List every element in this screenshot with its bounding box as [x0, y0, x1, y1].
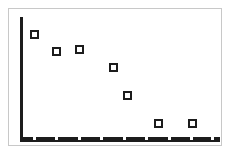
- plot-frame: [8, 8, 222, 146]
- x-axis-tick: [100, 137, 103, 140]
- y-axis-line: [20, 17, 23, 141]
- data-point-marker: [109, 63, 118, 72]
- x-axis-tick: [145, 137, 148, 140]
- x-axis-tick: [211, 137, 214, 140]
- x-axis-tick: [168, 137, 171, 140]
- x-axis-tick: [190, 137, 193, 140]
- data-point-marker: [52, 47, 61, 56]
- x-axis-tick: [78, 137, 81, 140]
- data-point-marker: [30, 30, 39, 39]
- data-point-marker: [154, 119, 163, 128]
- x-axis-tick: [55, 137, 58, 140]
- data-point-marker: [75, 45, 84, 54]
- data-point-marker: [123, 91, 132, 100]
- data-point-marker: [188, 119, 197, 128]
- figure-canvas: [0, 0, 232, 155]
- x-axis-tick: [33, 137, 36, 140]
- x-axis-tick: [123, 137, 126, 140]
- plot-area: [9, 9, 223, 147]
